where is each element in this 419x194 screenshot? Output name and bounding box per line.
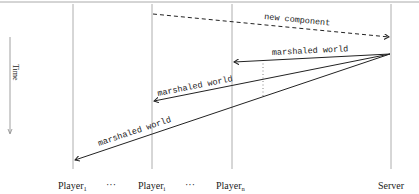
lifeline-labels: Player1 ··· Playeri ··· Playern Server (58, 179, 405, 192)
message-marshaled-world-n: marshaled world (234, 44, 390, 62)
message-new-component: new component (153, 12, 389, 37)
time-axis: Time (8, 37, 20, 134)
solid-arrow (75, 54, 390, 160)
ellipsis-2: ··· (185, 179, 195, 190)
label-player1: Player1 (58, 180, 87, 192)
message-label: marshaled world (97, 115, 173, 149)
label-server: Server (378, 180, 405, 191)
message-marshaled-world-1: marshaled world (75, 54, 390, 160)
label-playeri: Playeri (138, 180, 166, 192)
time-label: Time (11, 64, 20, 81)
sequence-diagram: Time new component marshaled world marsh… (0, 0, 419, 194)
label-playern: Playern (216, 180, 246, 192)
message-label: marshaled world (157, 74, 234, 99)
message-label: marshaled world (272, 44, 349, 58)
ellipsis-1: ··· (106, 179, 116, 190)
